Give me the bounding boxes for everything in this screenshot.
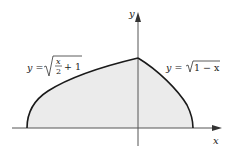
- left-curve-label: y = x 2 + 1: [26, 56, 82, 76]
- left-radicand-tail: + 1: [64, 61, 81, 72]
- right-radicand: 1 − x: [194, 62, 220, 73]
- right-label-lhs: y =: [165, 62, 182, 73]
- left-radicand-num: x: [56, 57, 61, 66]
- x-axis-arrow-icon: [212, 125, 222, 131]
- x-axis-label: x: [213, 135, 219, 146]
- y-axis-label: y: [128, 8, 135, 19]
- y-axis-arrow-icon: [135, 12, 141, 22]
- left-label-lhs: y =: [26, 62, 43, 73]
- region-diagram: y x y = x 2 + 1 y = 1 − x: [0, 0, 230, 155]
- right-curve-label: y = 1 − x: [165, 61, 220, 73]
- left-radicand-den: 2: [56, 67, 61, 76]
